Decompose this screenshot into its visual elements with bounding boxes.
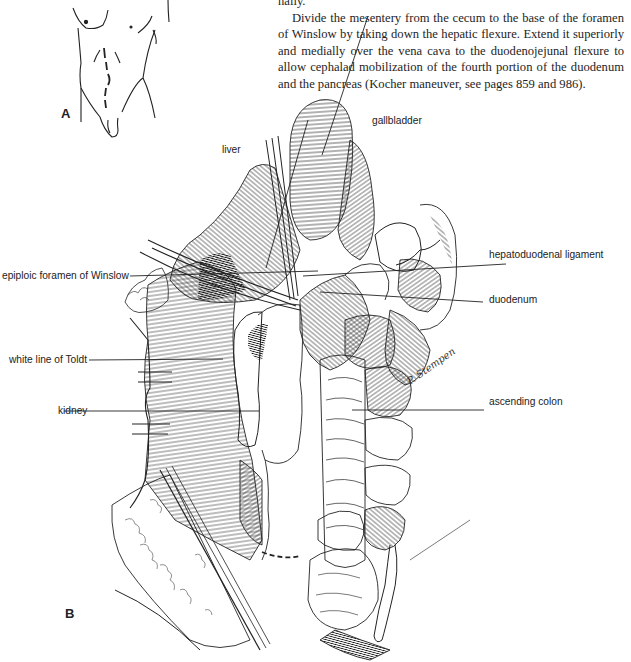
torso-figure-a: [73, 0, 169, 137]
label-white-line-of-toldt: white line of Toldt: [9, 354, 87, 366]
surgical-illustration: P. Stempen: [0, 0, 631, 662]
label-gallbladder: gallbladder: [372, 115, 422, 127]
text-fragment: nally.: [278, 0, 624, 10]
body-text: nally. Divide the mesentery from the cec…: [278, 0, 624, 93]
label-duodenum: duodenum: [489, 294, 537, 306]
paragraph-kocher-maneuver: Divide the mesentery from the cecum to t…: [278, 10, 624, 93]
label-kidney: kidney: [58, 405, 87, 417]
label-ascending-colon: ascending colon: [489, 396, 563, 408]
label-hepatoduodenal-ligament: hepatoduodenal ligament: [489, 249, 603, 261]
figure-label-a: A: [61, 106, 70, 121]
label-liver: liver: [222, 144, 241, 156]
dissection-figure-b: P. Stempen: [112, 100, 470, 660]
figure-label-b: B: [65, 606, 74, 621]
label-epiploic-foramen: epiploic foramen of Winslow: [2, 270, 129, 282]
